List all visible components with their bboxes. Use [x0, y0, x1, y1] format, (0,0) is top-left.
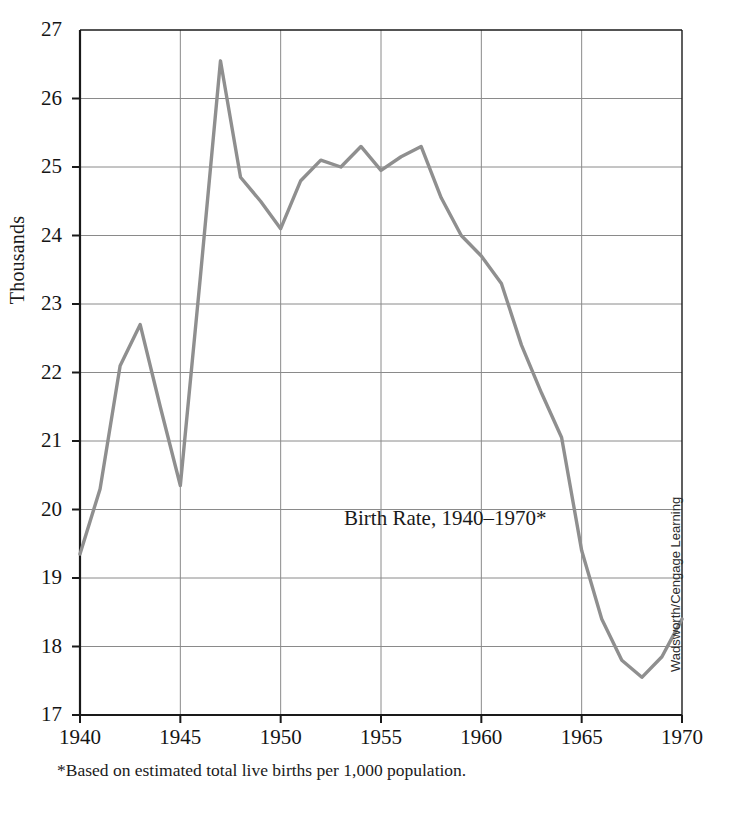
- y-tick-label: 17: [22, 704, 62, 725]
- axis-ticks: [72, 99, 682, 724]
- x-tick-label: 1960: [441, 727, 521, 748]
- y-tick-label: 19: [22, 567, 62, 588]
- y-tick-label: 22: [22, 362, 62, 383]
- publisher-credit: Wadsworth/Cengage Learning: [668, 472, 683, 672]
- y-tick-label: 21: [22, 430, 62, 451]
- x-tick-label: 1945: [140, 727, 220, 748]
- x-tick-label: 1965: [542, 727, 622, 748]
- x-tick-label: 1955: [341, 727, 421, 748]
- x-tick-label: 1970: [642, 727, 722, 748]
- y-tick-label: 18: [22, 636, 62, 657]
- y-tick-label: 25: [22, 156, 62, 177]
- footnote-text: *Based on estimated total live births pe…: [57, 760, 466, 781]
- y-tick-label: 24: [22, 225, 62, 246]
- x-tick-label: 1950: [241, 727, 321, 748]
- y-tick-label: 26: [22, 88, 62, 109]
- y-tick-label: 23: [22, 293, 62, 314]
- x-tick-label: 1940: [40, 727, 120, 748]
- birth-rate-figure: Thousands 1718192021222324252627 1940194…: [0, 0, 737, 819]
- y-tick-label: 27: [22, 19, 62, 40]
- gridlines: [80, 30, 682, 715]
- chart-plot-area: [0, 0, 737, 819]
- chart-title-annotation: Birth Rate, 1940–1970*: [344, 506, 546, 531]
- y-tick-label: 20: [22, 499, 62, 520]
